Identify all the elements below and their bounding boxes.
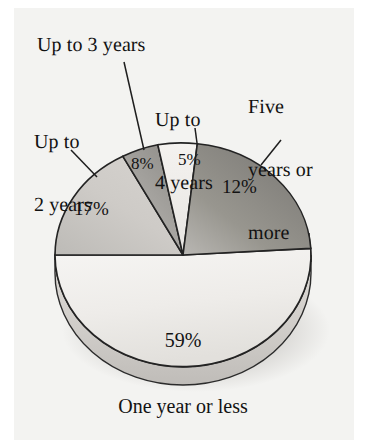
value-label-one-year-or-less: 59% [83, 329, 283, 351]
value-label-up-to-3-years: 8% [131, 154, 154, 174]
leader-line-up-to-3-years [124, 62, 144, 150]
value-label-five-years-or-more: 12% [222, 177, 257, 197]
callout-label-five-years-or-more-line3: more [248, 223, 313, 244]
callout-label-up-to-3-years: Up to 3 years [37, 35, 146, 56]
callout-label-up-to-2-years-line1: Up to [34, 132, 92, 153]
callout-label-up-to-4-years-line2: 4 years [155, 173, 213, 194]
callout-label-up-to-2-years: Up to 2 years [34, 90, 92, 258]
value-label-one-year-or-less-group: 59% One year or less [83, 285, 283, 448]
callout-label-five-years-or-more-line1: Five [248, 97, 313, 118]
callout-label-one-year-or-less: One year or less [83, 395, 283, 417]
value-label-up-to-2-years: 17% [74, 199, 109, 219]
pie-chart-figure: Up to 3 years Up to 2 years Up to 4 year… [0, 0, 365, 448]
callout-label-five-years-or-more: Five years or more [248, 55, 313, 286]
callout-label-five-years-or-more-line2: years or [248, 160, 313, 181]
callout-label-up-to-4-years-line1: Up to [155, 110, 213, 131]
value-label-up-to-4-years: 5% [178, 150, 201, 170]
